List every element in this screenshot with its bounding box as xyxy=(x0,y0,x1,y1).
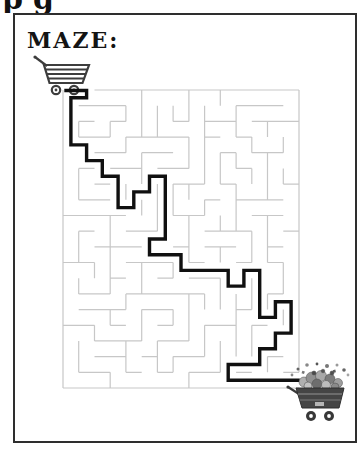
maze-worksheet-page: pg MAZE: xyxy=(0,0,361,455)
cart-body xyxy=(286,385,344,421)
maze xyxy=(63,90,299,388)
full-shopping-cart-icon xyxy=(286,362,352,424)
maze-solution-path xyxy=(64,91,299,381)
cropped-heading-text: pg xyxy=(2,0,72,13)
page-title: MAZE: xyxy=(27,27,119,53)
maze-walls xyxy=(63,90,299,388)
cropped-heading-fragment: pg xyxy=(2,0,72,13)
